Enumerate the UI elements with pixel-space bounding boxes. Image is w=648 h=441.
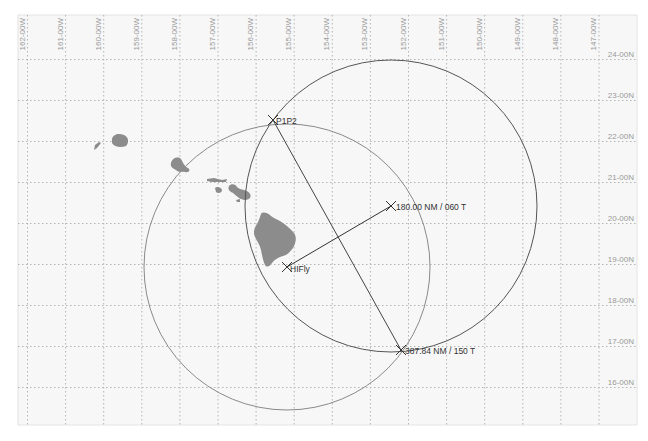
longitude-label: 152-00W xyxy=(399,18,408,51)
latitude-label: 19-00N xyxy=(608,255,634,264)
map-frame xyxy=(18,15,637,425)
longitude-label: 150-00W xyxy=(475,18,484,51)
latitude-label: 17-00N xyxy=(608,337,634,346)
waypoint-range-bearing-1[interactable]: 180.00 NM / 060 T xyxy=(386,201,466,212)
longitude-label: 153-00W xyxy=(360,18,369,51)
latitude-label: 23-00N xyxy=(608,91,634,100)
waypoint-label-hifly: HIFly xyxy=(290,264,311,274)
longitude-label: 157-00W xyxy=(208,18,217,51)
waypoint-label-range-bearing-2: 387.84 NM / 150 T xyxy=(405,346,475,356)
longitude-label: 154-00W xyxy=(322,18,331,51)
longitude-label: 156-00W xyxy=(246,18,255,51)
latitude-label: 21-00N xyxy=(608,173,634,182)
longitude-label: 159-00W xyxy=(132,18,141,51)
longitude-label: 158-00W xyxy=(170,18,179,51)
latitude-label: 24-00N xyxy=(608,50,634,59)
island-kauai xyxy=(112,134,128,147)
longitude-label: 149-00W xyxy=(513,18,522,51)
longitude-label: 161-00W xyxy=(56,18,65,51)
latitude-label: 18-00N xyxy=(608,296,634,305)
latitude-label: 22-00N xyxy=(608,132,634,141)
chart-map[interactable]: 162-00W161-00W160-00W159-00W158-00W157-0… xyxy=(0,0,648,441)
longitude-label: 147-00W xyxy=(589,18,598,51)
longitude-label: 155-00W xyxy=(284,18,293,51)
latitude-label: 16-00N xyxy=(608,378,634,387)
longitude-label: 151-00W xyxy=(437,18,446,51)
waypoint-range-bearing-2[interactable]: 387.84 NM / 150 T xyxy=(396,345,475,356)
latitude-label: 20-00N xyxy=(608,214,634,223)
longitude-label: 148-00W xyxy=(551,18,560,51)
longitude-label: 162-00W xyxy=(18,18,27,51)
longitude-label: 160-00W xyxy=(94,18,103,51)
waypoint-label-p1p2: P1P2 xyxy=(276,116,297,126)
waypoint-label-range-bearing-1: 180.00 NM / 060 T xyxy=(396,202,466,212)
